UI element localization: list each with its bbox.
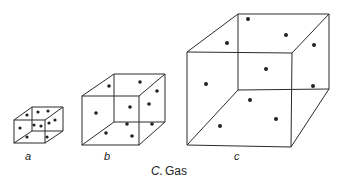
particle: [25, 113, 28, 116]
particle: [155, 89, 159, 93]
cube-c: c: [187, 14, 329, 162]
caption: C. Gas: [151, 164, 187, 177]
cube-c-front-face: [187, 52, 292, 147]
particle: [107, 84, 111, 88]
cube-b-connect-edges: [82, 74, 165, 145]
particle: [47, 121, 50, 124]
particle: [39, 124, 42, 127]
particle: [104, 131, 108, 135]
cube-b-front-face: [82, 96, 139, 145]
particle: [32, 123, 35, 126]
particle: [246, 17, 250, 21]
particle: [45, 135, 48, 138]
particle: [46, 109, 49, 112]
particle: [128, 105, 132, 109]
caption-prefix: C.: [151, 164, 163, 177]
particle: [274, 117, 278, 121]
gas-diagram: a b: [0, 0, 342, 177]
particle: [36, 110, 39, 113]
cube-c-connect-edges: [187, 14, 329, 147]
particle: [94, 111, 98, 115]
particle: [264, 67, 268, 71]
cube-c-back-edges: [238, 14, 329, 90]
particle: [150, 122, 154, 126]
particle: [312, 43, 316, 47]
particle: [25, 135, 28, 138]
particle: [225, 41, 229, 45]
cube-a-particles: [18, 109, 56, 138]
particle: [125, 122, 129, 126]
particle: [130, 134, 134, 138]
cube-a: a: [14, 107, 63, 162]
particle: [284, 33, 288, 37]
particle: [218, 124, 222, 128]
particle: [138, 80, 142, 84]
caption-word: Gas: [165, 164, 187, 177]
cube-b: b: [82, 74, 165, 162]
cube-c-label: c: [234, 150, 240, 162]
particle: [311, 84, 315, 88]
particle: [18, 126, 21, 129]
particle: [204, 82, 208, 86]
particle: [248, 98, 252, 102]
cube-b-label: b: [104, 150, 110, 162]
particle: [53, 118, 56, 121]
particle: [147, 102, 151, 106]
cube-c-particles: [204, 17, 316, 128]
cube-a-label: a: [25, 150, 31, 162]
